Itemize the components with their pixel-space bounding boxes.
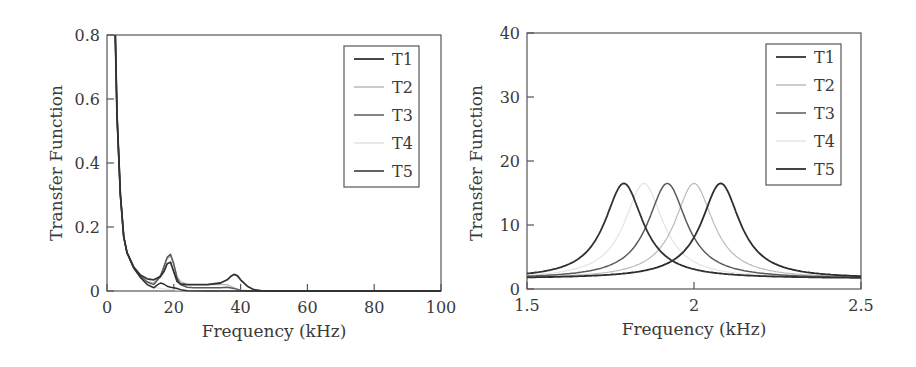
right-series-lines [527,183,861,277]
x-tick-label: 60 [297,298,317,317]
left-x-axis-label: Frequency (kHz) [202,321,347,341]
legend-label-t2: T2 [392,78,413,97]
x-tick-label: 20 [164,298,184,317]
y-tick-label: 0.2 [75,218,100,237]
series-line-t4 [527,183,861,277]
y-tick-label: 0 [510,280,520,299]
y-tick-label: 0 [90,282,100,301]
y-tick-label: 0.4 [75,154,100,173]
x-tick-label: 2 [689,296,699,315]
y-tick-label: 0.8 [75,26,100,45]
legend-label-t1: T1 [392,50,413,69]
y-tick-label: 40 [500,24,520,43]
legend-label-t5: T5 [814,160,835,179]
x-tick-label: 100 [426,298,457,317]
y-tick-label: 20 [500,152,520,171]
x-tick-label: 80 [364,298,384,317]
left-y-axis-label: Transfer Function [46,85,66,241]
series-line-t2 [527,183,861,277]
series-line-t3 [527,183,861,277]
y-tick-label: 30 [500,88,520,107]
right-x-axis-ticks: 1.522.5 [514,282,873,315]
legend-label-t1: T1 [814,48,835,67]
right-y-axis-label: Transfer Function [466,85,486,241]
left-chart-panel: 020406080100 00.20.40.60.8 Frequency (kH… [0,0,458,367]
legend-label-t5: T5 [392,162,413,181]
x-tick-label: 40 [230,298,250,317]
series-line-t1 [527,183,861,277]
right-legend: T1T2T3T4T5 [766,44,841,185]
right-chart-panel: 1.522.5 010203040 Frequency (kHz) Transf… [458,0,916,367]
left-chart: 020406080100 00.20.40.60.8 Frequency (kH… [0,0,458,367]
x-tick-label: 2.5 [848,296,873,315]
x-tick-label: 0 [102,298,112,317]
legend-label-t4: T4 [814,132,835,151]
right-chart: 1.522.5 010203040 Frequency (kHz) Transf… [458,0,916,367]
legend-label-t2: T2 [814,76,835,95]
series-line-t5 [527,183,861,277]
right-y-axis-ticks: 010203040 [500,24,534,299]
left-x-axis-ticks: 020406080100 [102,284,456,317]
legend-label-t4: T4 [392,134,413,153]
left-legend: T1T2T3T4T5 [344,46,419,187]
right-x-axis-label: Frequency (kHz) [622,319,767,339]
legend-label-t3: T3 [392,106,413,125]
y-tick-label: 0.6 [75,90,100,109]
left-y-axis-ticks: 00.20.40.60.8 [75,26,114,301]
y-tick-label: 10 [500,216,520,235]
legend-label-t3: T3 [814,104,835,123]
